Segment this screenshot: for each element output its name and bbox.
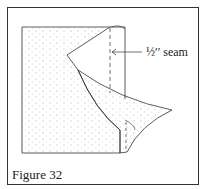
figure-caption: Figure 32 bbox=[12, 167, 62, 183]
seam-annotation: ½′′ seam bbox=[146, 45, 188, 60]
fabric-fold-illustration bbox=[0, 0, 205, 189]
